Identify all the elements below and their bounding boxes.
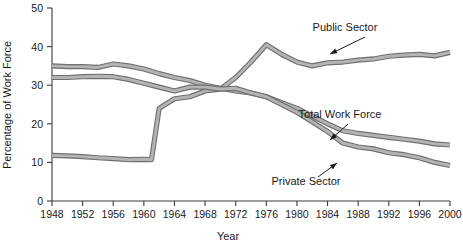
x-tick-label: 1952 (71, 208, 95, 220)
x-tick-label: 1968 (193, 208, 217, 220)
y-tick-label: 10 (31, 156, 43, 168)
x-tick-label: 1964 (163, 208, 187, 220)
x-tick-label: 1956 (102, 208, 126, 220)
x-tick-label: 1992 (377, 208, 401, 220)
annotation-label: Public Sector (313, 21, 378, 33)
x-tick-label: 2000 (438, 208, 462, 220)
y-tick-label: 50 (31, 2, 43, 14)
y-axis-title: Percentage of Work Force (1, 41, 13, 169)
x-tick-label: 1996 (408, 208, 432, 220)
y-tick-label: 40 (31, 41, 43, 53)
y-tick-label: 30 (31, 79, 43, 91)
x-tick-label: 1984 (316, 208, 340, 220)
x-axis-title: Year (217, 230, 240, 242)
annotation-label: Private Sector (271, 175, 340, 187)
annotation-label: Total Work Force (299, 108, 382, 120)
line-chart: 01020304050 1948195219561960196419681972… (0, 0, 463, 245)
x-tick-label: 1960 (132, 208, 156, 220)
y-tick-label: 0 (37, 195, 43, 207)
y-tick-label: 20 (31, 118, 43, 130)
chart-figure: 01020304050 1948195219561960196419681972… (0, 0, 463, 245)
x-tick-label: 1976 (255, 208, 279, 220)
x-tick-label: 1988 (346, 208, 370, 220)
x-tick-label: 1948 (40, 208, 64, 220)
x-tick-label: 1972 (224, 208, 248, 220)
x-tick-label: 1980 (285, 208, 309, 220)
